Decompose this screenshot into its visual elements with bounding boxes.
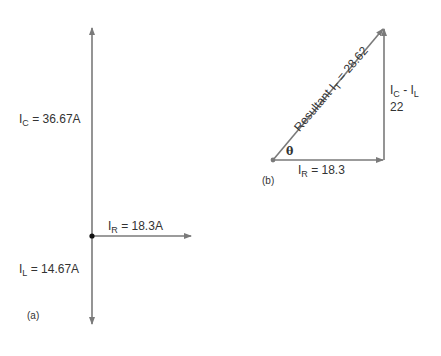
ir-label: IR = 18.3A: [108, 219, 163, 235]
ir-label-b: IR = 18.3: [298, 163, 345, 179]
reactive-value: 22: [390, 100, 403, 114]
reactive-label: IC - IL: [390, 83, 419, 99]
ir-value-b: = 18.3: [308, 163, 345, 177]
il-value: = 14.67A: [27, 262, 79, 276]
figure-label-a: (a): [27, 310, 39, 321]
ic-value: = 36.67A: [29, 112, 81, 126]
figure-label-b: (b): [262, 175, 274, 186]
ic-label: IC = 36.67A: [19, 112, 81, 128]
ir-value: = 18.3A: [118, 219, 163, 233]
phasor-diagram-canvas: [0, 0, 441, 356]
theta-angle-label: θ: [286, 145, 293, 158]
il-subscript-b: L: [414, 89, 419, 99]
il-symbol-b: - I: [400, 83, 414, 97]
origin-dot-b: [271, 158, 276, 163]
il-label: IL = 14.67A: [19, 262, 79, 278]
origin-dot: [89, 233, 94, 238]
